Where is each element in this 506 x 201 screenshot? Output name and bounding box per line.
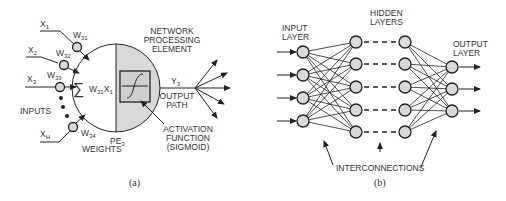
svg-text:W33: W33 [47,70,62,81]
interconnections-label: INTERCONNECTIONS [336,163,425,173]
svg-text:LAYER: LAYER [282,32,309,42]
svg-text:X3: X3 [27,74,37,85]
output-layer-label: OUTPUT LAYER [453,39,488,58]
svg-text:W31: W31 [73,30,88,41]
output-layer-nodes [446,61,458,117]
input-layer-label: INPUT LAYER [282,23,309,42]
svg-text:X2: X2 [28,45,38,56]
figure-canvas: ∑ W31X1 PE3 X1 W31 X2 W32 X3 W33 [0,0,506,201]
sum-symbol: ∑ [73,80,84,98]
hidden-layer-2-nodes [399,36,411,138]
input-arrows [277,52,296,121]
connections-in-h1 [303,42,356,132]
input-3: X3 W33 [25,70,76,92]
hidden-layers-label: HIDDEN LAYERS [370,8,403,27]
caption-b: (b) [374,177,386,189]
dashed-hidden-links [364,42,398,132]
connections-h2-out [405,42,452,132]
svg-text:PATH: PATH [166,100,187,110]
svg-text:ELEMENT: ELEMENT [152,44,192,54]
input-2: X2 W32 [26,45,79,73]
panel-a-single-neuron: ∑ W31X1 PE3 X1 W31 X2 W32 X3 W33 [20,19,230,189]
panel-b-network: INPUT LAYER HIDDEN LAYERS OUTPUT LAYER I… [277,8,488,189]
npe-label: NETWORK PROCESSING ELEMENT [144,26,201,54]
caption-a: (a) [129,177,140,189]
svg-text:LAYERS: LAYERS [370,17,403,27]
svg-text:(SIGMOID): (SIGMOID) [167,142,210,152]
output-arrows [459,67,480,111]
svg-text:LAYER: LAYER [453,48,480,58]
sum-term: W31X1 [89,84,113,95]
svg-text:W32: W32 [56,48,71,59]
interconnections-pointers [324,131,436,167]
inputs-label: INPUTS [20,106,52,116]
svg-text:XH: XH [40,129,50,140]
ellipsis-dots [59,96,69,118]
svg-text:X1: X1 [40,19,50,30]
input-h: XH W34 [40,115,96,142]
weights-label: WEIGHTS [82,144,122,154]
hidden-layer-1-nodes [350,36,362,138]
svg-text:W34: W34 [81,128,96,139]
svg-text:Y3: Y3 [171,76,181,87]
output-path: Y3 OUTPUT PATH [160,60,230,118]
